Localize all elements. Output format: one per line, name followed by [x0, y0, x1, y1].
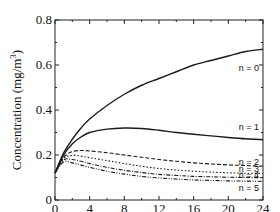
x-tick-label: 16 [187, 201, 201, 212]
x-tick-label: 4 [86, 201, 93, 212]
plot-area [55, 49, 263, 181]
series-line-n5 [55, 161, 263, 181]
x-tick-label: 24 [257, 201, 271, 212]
concentration-line-chart: 0481216202400.20.40.60.8 n = 0n = 1n = 2… [0, 0, 280, 212]
y-tick-label: 0.6 [36, 57, 53, 72]
series-label: n = 5 [239, 183, 259, 193]
y-axis-title-end: ) [9, 50, 24, 54]
x-tick-label: 20 [222, 201, 235, 212]
series-line-n4 [55, 159, 263, 178]
y-axis-title: Concentration (mg/m3) [8, 50, 24, 170]
y-tick-label: 0.2 [36, 147, 52, 162]
axes: 0481216202400.20.40.60.8 [36, 12, 270, 212]
plot-frame [55, 20, 263, 200]
series-line-n3 [55, 155, 263, 173]
x-axis-title: Time (h) [136, 210, 181, 212]
y-tick-label: 0.8 [36, 12, 52, 27]
series-line-n0 [55, 49, 263, 173]
y-tick-label: 0.4 [36, 102, 53, 117]
series-label: n = 1 [239, 122, 259, 132]
series-label: n = 0 [239, 63, 259, 73]
y-axis-title-main: Concentration (mg/m [9, 59, 24, 171]
x-tick-label: 0 [52, 201, 59, 212]
series-line-n2 [55, 150, 263, 173]
series-label: n = 4 [239, 170, 259, 180]
x-tick-label: 8 [121, 201, 128, 212]
series-labels: n = 0n = 1n = 2n = 3n = 4n = 5 [239, 63, 259, 193]
y-tick-label: 0 [46, 192, 53, 207]
